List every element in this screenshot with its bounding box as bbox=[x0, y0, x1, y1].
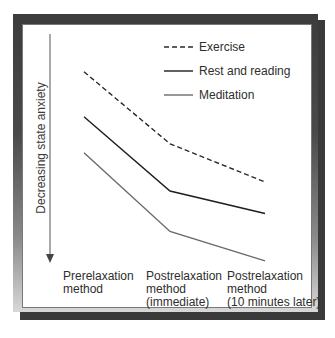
y-axis-label: Decreasing state anxiety bbox=[34, 82, 48, 213]
legend-label-rest-and-reading: Rest and reading bbox=[199, 64, 290, 78]
legend-label-exercise: Exercise bbox=[199, 40, 245, 54]
x-tick-postrelaxation-immediate: Postrelaxation method (immediate) bbox=[146, 270, 222, 309]
x-tick-postrelaxation-10min: Postrelaxation method (10 minutes later) bbox=[227, 270, 320, 309]
series-line-rest-and-reading bbox=[84, 117, 265, 214]
x-tick-prerelaxation: Prerelaxation method bbox=[63, 270, 134, 296]
legend-label-meditation: Meditation bbox=[199, 88, 254, 102]
down-arrow-icon bbox=[46, 254, 54, 263]
